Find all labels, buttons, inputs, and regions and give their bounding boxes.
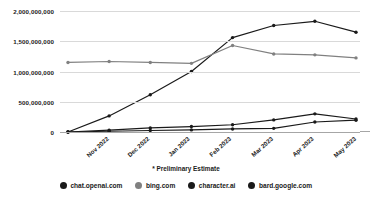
- data-point: [354, 56, 357, 59]
- gridline: [60, 102, 360, 103]
- data-point: [231, 123, 234, 126]
- data-point: [107, 114, 110, 117]
- data-point: [272, 52, 275, 55]
- data-point: [313, 120, 316, 123]
- legend-marker-icon: [188, 182, 195, 189]
- data-point: [66, 61, 69, 64]
- x-axis-tick-label: May 2023: [332, 135, 357, 159]
- data-point: [231, 36, 234, 39]
- data-point: [272, 118, 275, 121]
- footnote: * Preliminary Estimate: [0, 165, 372, 172]
- data-point: [231, 127, 234, 130]
- gridline: [60, 72, 360, 73]
- x-axis-tick-label: Jan 2023: [167, 135, 191, 158]
- series-line: [68, 45, 356, 63]
- y-axis: 0500,000,0001,000,000,0001,500,000,0002,…: [0, 0, 58, 140]
- y-axis-tick-label: 1,500,000,000: [13, 38, 54, 45]
- plot-area: [60, 11, 360, 132]
- y-axis-tick-label: 1,000,000,000: [13, 68, 54, 75]
- x-axis: Nov 2022Dec 2022Jan 2023Feb 2023Mar 2023…: [0, 133, 372, 167]
- data-point: [190, 125, 193, 128]
- legend-item[interactable]: bard.google.com: [248, 182, 312, 189]
- line-chart: 0500,000,0001,000,000,0001,500,000,0002,…: [0, 0, 372, 203]
- x-axis-tick-label: Nov 2022: [85, 135, 110, 158]
- legend-marker-icon: [60, 182, 67, 189]
- data-point: [149, 93, 152, 96]
- data-point: [313, 112, 316, 115]
- data-point: [231, 44, 234, 47]
- data-point: [313, 53, 316, 56]
- legend-marker-icon: [135, 182, 142, 189]
- legend-item[interactable]: character.ai: [188, 182, 235, 189]
- axis-extension: [360, 131, 370, 132]
- legend-item[interactable]: chat.openai.com: [60, 182, 123, 189]
- x-axis-tick-label: Feb 2023: [208, 135, 232, 158]
- legend-label: bing.com: [146, 182, 175, 189]
- legend-marker-icon: [248, 182, 255, 189]
- legend-label: character.ai: [199, 182, 236, 189]
- data-point: [149, 61, 152, 64]
- data-point: [272, 24, 275, 27]
- legend-label: chat.openai.com: [70, 182, 122, 189]
- legend-item[interactable]: bing.com: [135, 182, 175, 189]
- legend-label: bard.google.com: [259, 182, 312, 189]
- data-point: [107, 60, 110, 63]
- y-axis-tick-label: 500,000,000: [18, 98, 54, 105]
- data-point: [313, 20, 316, 23]
- y-axis-tick-label: 2,000,000,000: [13, 8, 54, 15]
- data-point: [354, 119, 357, 122]
- x-axis-tick-label: Mar 2023: [249, 135, 273, 158]
- chart-legend: chat.openai.combing.comcharacter.aibard.…: [0, 182, 372, 189]
- data-point: [354, 30, 357, 33]
- data-point: [272, 127, 275, 130]
- gridline: [60, 41, 360, 42]
- x-axis-tick-label: Apr 2023: [290, 135, 314, 158]
- data-point: [190, 62, 193, 65]
- x-axis-tick-label: Dec 2022: [126, 135, 151, 158]
- gridline: [60, 11, 360, 12]
- series-line: [68, 21, 356, 132]
